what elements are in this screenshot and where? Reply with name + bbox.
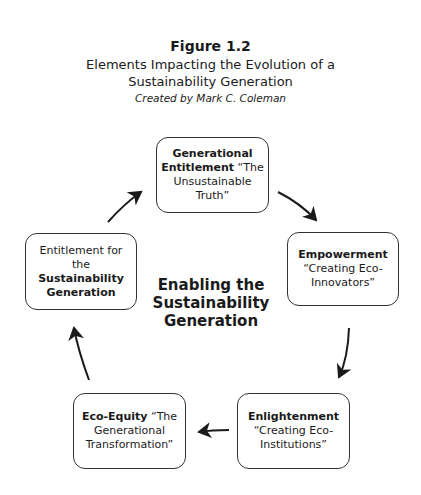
node-right-title: Empowerment	[298, 248, 387, 261]
node-left-title-1: Sustainability	[38, 272, 124, 285]
center-label: Enabling the Sustainability Generation	[138, 276, 284, 330]
node-enlightenment: Enlightenment “Creating Eco-Institutions…	[237, 393, 350, 469]
node-empowerment: Empowerment “Creating Eco-Innovators”	[287, 232, 399, 306]
center-line-1: Enabling the	[138, 276, 284, 294]
node-left-prefix: Entitlement for the	[40, 244, 123, 271]
arrow-right-to-bottom-right	[339, 328, 349, 377]
node-top-title-2: Entitlement	[161, 161, 234, 174]
node-bottom-right-subtitle: “Creating Eco-Institutions”	[254, 424, 334, 451]
center-line-3: Generation	[138, 312, 284, 330]
arrow-left-to-top	[108, 192, 141, 222]
node-right-subtitle: “Creating Eco-Innovators”	[303, 262, 383, 289]
node-top-title-1: Generational	[172, 147, 252, 160]
node-generational-entitlement: Generational Entitlement “The Unsustaina…	[156, 137, 269, 213]
node-entitlement-sustainability: Entitlement for the Sustainability Gener…	[25, 233, 137, 310]
arrow-top-to-right	[278, 192, 316, 220]
center-line-2: Sustainability	[138, 294, 284, 312]
arrow-bottom-right-to-bottom-left	[199, 430, 229, 432]
arrow-bottom-left-to-left	[74, 328, 89, 380]
node-bottom-right-title: Enlightenment	[248, 410, 339, 423]
node-bottom-left-title: Eco-Equity	[82, 410, 148, 423]
node-eco-equity: Eco-Equity “The Generational Transformat…	[73, 393, 186, 469]
node-left-title-2: Generation	[46, 286, 115, 299]
